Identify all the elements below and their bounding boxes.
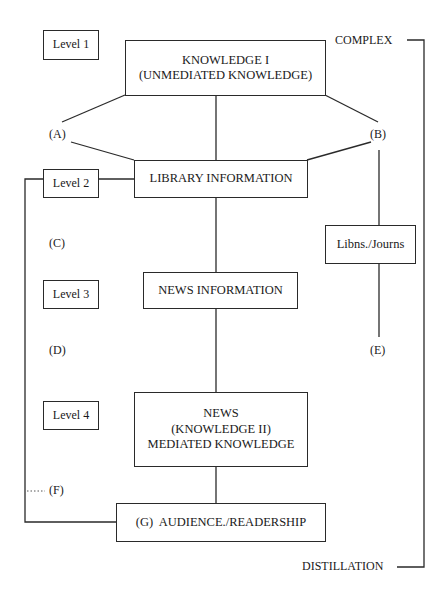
news-title: NEWS bbox=[203, 406, 238, 422]
level-2-label: Level 2 bbox=[53, 176, 89, 192]
libns-journs-node: Libns./Journs bbox=[325, 225, 416, 264]
marker-f: (F) bbox=[49, 483, 64, 498]
bracket-label-complex: COMPLEX bbox=[335, 33, 392, 48]
news-mediated-knowledge: MEDIATED KNOWLEDGE bbox=[148, 437, 295, 453]
level-4-box: Level 4 bbox=[43, 401, 99, 430]
news-information-node: NEWS INFORMATION bbox=[143, 272, 298, 309]
news-knowledge-ii: (KNOWLEDGE II) bbox=[171, 422, 271, 438]
marker-b: (B) bbox=[370, 127, 386, 142]
marker-a: (A) bbox=[49, 127, 66, 142]
knowledge-i-title: KNOWLEDGE I bbox=[182, 53, 269, 69]
knowledge-i-node: KNOWLEDGE I (UNMEDIATED KNOWLEDGE) bbox=[125, 40, 326, 96]
bracket-label-distillation: DISTILLATION bbox=[302, 559, 383, 574]
level-2-box: Level 2 bbox=[43, 169, 99, 198]
level-3-label: Level 3 bbox=[53, 287, 89, 303]
level-1-box: Level 1 bbox=[43, 30, 99, 60]
marker-c: (C) bbox=[49, 236, 65, 251]
level-4-label: Level 4 bbox=[53, 408, 89, 424]
audience-readership-node: (G) AUDIENCE./READERSHIP bbox=[116, 503, 326, 542]
level-1-label: Level 1 bbox=[53, 37, 89, 53]
news-node: NEWS (KNOWLEDGE II) MEDIATED KNOWLEDGE bbox=[134, 392, 308, 467]
marker-e: (E) bbox=[370, 343, 385, 358]
library-information-label: LIBRARY INFORMATION bbox=[150, 171, 293, 187]
level-3-box: Level 3 bbox=[43, 280, 99, 309]
libns-journs-label: Libns./Journs bbox=[337, 237, 405, 253]
news-information-label: NEWS INFORMATION bbox=[158, 283, 283, 299]
library-information-node: LIBRARY INFORMATION bbox=[134, 160, 308, 198]
knowledge-i-subtitle: (UNMEDIATED KNOWLEDGE) bbox=[139, 68, 312, 84]
marker-d: (D) bbox=[49, 343, 66, 358]
audience-readership-label: (G) AUDIENCE./READERSHIP bbox=[136, 515, 306, 531]
